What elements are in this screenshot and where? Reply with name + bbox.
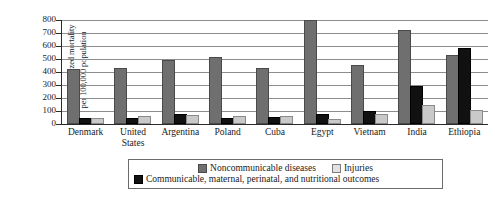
bar-inj [470,110,483,124]
bar-ncd [209,57,222,124]
legend-item: Communicable, maternal, perinatal, and n… [134,174,379,185]
x-axis-category-label: Ethiopia [441,127,488,138]
x-axis-category-label: Poland [204,127,251,138]
y-tick-mark [56,111,61,112]
chart-legend: Noncommunicable diseasesInjuries Communi… [128,159,443,189]
bar-inj [233,116,246,124]
bar-inj [280,116,293,124]
bar-inj [328,119,341,124]
y-tick-mark [56,72,61,73]
y-tick-label: 0 [30,119,56,128]
x-axis-category-label: India [393,127,440,138]
y-tick-label: 300 [30,80,56,89]
legend-swatch-comm [134,175,143,184]
y-tick-label: 600 [30,41,56,50]
y-tick-label: 400 [30,67,56,76]
y-tick-mark [56,20,61,21]
bar-ncd [67,69,80,124]
chart-figure: Age-standardized mortality per 100,000 p… [0,0,495,204]
y-tick-label: 700 [30,28,56,37]
bar-group [204,20,251,124]
y-axis-ticks: 0100200300400500600700800 [22,0,56,204]
legend-swatch-inj [332,164,341,173]
legend-item: Injuries [332,163,373,174]
bar-ncd [256,68,269,124]
bar-group [393,20,440,124]
y-tick-mark [56,85,61,86]
y-tick-label: 800 [30,15,56,24]
x-axis-category-label: Vietnam [346,127,393,138]
bar-group [109,20,156,124]
x-axis-line [61,124,488,125]
legend-row-2: Communicable, maternal, perinatal, and n… [133,174,438,185]
x-axis-category-label: Argentina [157,127,204,138]
bar-group [441,20,488,124]
legend-label: Communicable, maternal, perinatal, and n… [146,174,379,185]
y-tick-label: 500 [30,54,56,63]
y-tick-mark [56,59,61,60]
bar-inj [375,114,388,124]
x-axis-category-label: Denmark [62,127,109,138]
y-tick-mark [56,46,61,47]
bar-inj [186,115,199,124]
bar-inj [422,105,435,124]
legend-item: Noncommunicable diseases [198,163,316,174]
legend-row-1: Noncommunicable diseasesInjuries [133,163,438,174]
bar-group [346,20,393,124]
x-axis-category-label: Egypt [299,127,346,138]
x-axis-category-label: United States [109,127,156,149]
bar-inj [91,118,104,124]
bar-group [157,20,204,124]
legend-label: Injuries [344,163,373,174]
plot-area [62,20,488,124]
legend-swatch-ncd [198,164,207,173]
bar-group [62,20,109,124]
y-tick-mark [56,98,61,99]
y-tick-label: 200 [30,93,56,102]
y-tick-mark [56,124,61,125]
x-axis-category-label: Cuba [251,127,298,138]
legend-label: Noncommunicable diseases [210,163,316,174]
bar-ncd [304,20,317,124]
bar-group [299,20,346,124]
bar-group [251,20,298,124]
y-tick-label: 100 [30,106,56,115]
bar-ncd [114,68,127,124]
bar-inj [138,116,151,124]
y-tick-mark [56,33,61,34]
